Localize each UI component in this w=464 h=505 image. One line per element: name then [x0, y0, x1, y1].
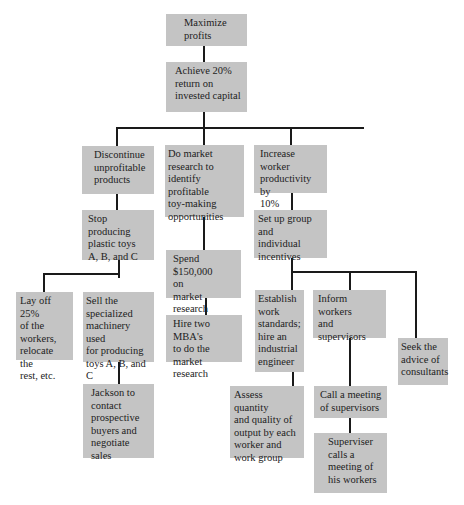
connector — [43, 273, 120, 275]
node-text: Hire two MBA's — [173, 318, 237, 343]
node-text: A, B, and C — [88, 251, 149, 264]
node-text: Inform workers — [318, 293, 381, 318]
node-text: and — [318, 318, 381, 331]
node-increase-productivity: Increase worker productivity by 10% — [254, 145, 327, 193]
node-achieve-20-return: Achieve 20% return on invested capital — [166, 62, 247, 112]
node-text: of supervisors — [320, 402, 382, 415]
node-supervisor-calls-meeting: Superviser calls a meeting of his worker… — [314, 433, 387, 493]
node-text: workers, — [20, 333, 68, 346]
node-text: Maximize — [184, 17, 242, 30]
node-text: research to — [168, 161, 239, 174]
node-discontinue-products: Discontinue unprofitable products — [82, 146, 154, 194]
node-text: prospective — [91, 412, 149, 425]
node-text: work — [258, 306, 299, 319]
node-text: consultants — [401, 366, 443, 379]
node-text: products — [94, 174, 149, 187]
connector — [203, 127, 205, 147]
node-text: standards; — [258, 318, 299, 331]
node-text: market research — [173, 291, 236, 316]
node-seek-consultants: Seek the advice of consultants — [398, 338, 448, 385]
node-text: on — [173, 278, 236, 291]
node-text: Sell the — [86, 295, 149, 308]
node-text: individual — [258, 238, 322, 251]
node-text: advice of — [401, 354, 443, 367]
node-lay-off-workers: Lay off 25% of the workers, relocate the… — [16, 292, 73, 360]
node-text: plastic toys — [88, 238, 149, 251]
node-text: 10% — [260, 198, 322, 211]
node-assess-output: Assess quantity and quality of output by… — [230, 386, 304, 458]
node-text: meeting of — [328, 461, 382, 474]
node-text: for producing — [86, 345, 149, 358]
connector — [290, 127, 292, 147]
node-text: incentives — [258, 251, 322, 264]
node-text: unprofitable — [94, 162, 149, 175]
node-text: of the — [20, 320, 68, 333]
node-text: Call a meeting — [320, 389, 382, 402]
node-text: Superviser — [328, 436, 382, 449]
node-text: Establish — [258, 293, 299, 306]
node-spend-150000: Spend $150,000 on market research — [166, 250, 241, 298]
node-text: toy-making — [168, 198, 239, 211]
node-text: industrial — [258, 343, 299, 356]
node-text: research — [173, 368, 237, 381]
node-text: Jackson to — [91, 387, 149, 400]
connector — [349, 416, 351, 434]
node-text: machinery used — [86, 320, 149, 345]
node-text: relocate the — [20, 345, 68, 370]
node-text: Spend $150,000 — [173, 253, 236, 278]
connector — [203, 44, 205, 62]
node-text: toys A, B, and C — [86, 358, 149, 383]
node-sell-machinery: Sell the specialized machinery used for … — [83, 292, 154, 362]
node-text: specialized — [86, 308, 149, 321]
node-text: identify profitable — [168, 173, 239, 198]
node-text: negotiate sales — [91, 437, 149, 462]
connector — [116, 193, 118, 211]
connector — [349, 337, 351, 387]
node-text: Discontinue — [94, 149, 149, 162]
node-jackson-contact-buyers: Jackson to contact prospective buyers an… — [83, 384, 154, 458]
node-text: engineer — [258, 356, 299, 369]
node-stop-producing: Stop producing plastic toys A, B, and C — [82, 210, 154, 260]
connector — [116, 127, 118, 147]
node-text: supervisors — [318, 331, 381, 344]
node-text: buyers and — [91, 425, 149, 438]
node-text: hire an — [258, 331, 299, 344]
node-text: Achieve 20% — [175, 65, 242, 78]
node-text: his workers — [328, 474, 382, 487]
node-text: Do market — [168, 148, 239, 161]
connector — [291, 271, 416, 273]
connector — [43, 273, 45, 293]
node-text: Increase worker — [260, 148, 322, 173]
node-hire-mbas: Hire two MBA's to do the market research — [166, 315, 242, 362]
node-text: rest, etc. — [20, 370, 68, 383]
node-set-up-incentives: Set up group and individual incentives — [254, 210, 327, 258]
node-text: productivity by — [260, 173, 322, 198]
node-establish-work-standards: Establish work standards; hire an indust… — [255, 290, 304, 372]
node-text: work group — [234, 452, 299, 465]
node-text: to do the market — [173, 343, 237, 368]
node-text: profits — [184, 30, 242, 43]
node-call-meeting: Call a meeting of supervisors — [314, 386, 387, 418]
node-text: Set up group and — [258, 213, 322, 238]
node-text: Stop producing — [88, 213, 149, 238]
connector — [116, 127, 364, 129]
node-maximize-profits: Maximize profits — [166, 14, 247, 46]
node-text: Assess quantity — [234, 389, 299, 414]
node-text: Seek the — [401, 341, 443, 354]
connector — [415, 271, 417, 343]
node-text: Lay off 25% — [20, 295, 68, 320]
connector — [203, 110, 205, 128]
node-text: invested capital — [175, 90, 242, 103]
node-text: opportunities — [168, 211, 239, 224]
node-text: and quality of — [234, 414, 299, 427]
node-market-research: Do market research to identify profitabl… — [165, 145, 244, 217]
node-text: output by each — [234, 427, 299, 440]
node-text: contact — [91, 400, 149, 413]
node-text: return on — [175, 78, 242, 91]
node-text: worker and — [234, 439, 299, 452]
node-text: calls a — [328, 449, 382, 462]
node-inform-workers: Inform workers and supervisors — [313, 290, 386, 338]
